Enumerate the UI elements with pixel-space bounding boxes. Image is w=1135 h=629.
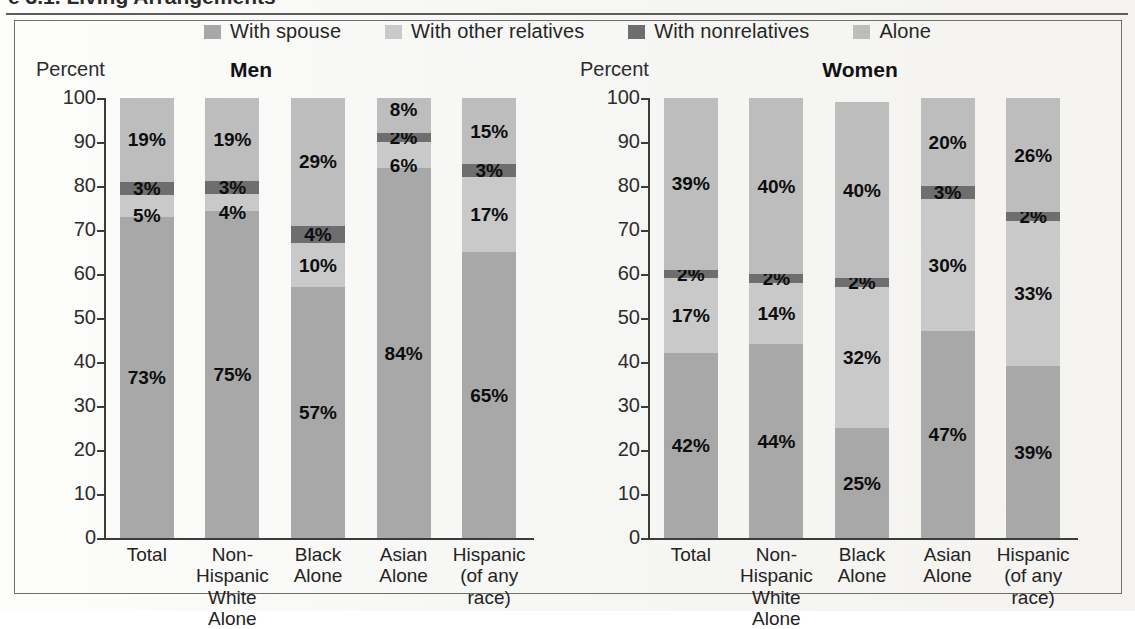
stacked-bar[interactable]: 47%30%3%20% bbox=[921, 98, 975, 538]
y-tick-label-60: 60 bbox=[50, 262, 96, 285]
x-axis-label-line1: Total bbox=[671, 544, 711, 565]
x-axis-women bbox=[648, 538, 1078, 540]
y-tick-label-30: 30 bbox=[594, 394, 640, 417]
bar-segment-nonrelatives[interactable]: 2% bbox=[749, 274, 803, 283]
bar-segment-nonrelatives[interactable]: 3% bbox=[205, 181, 259, 194]
bar-segment-spouse[interactable]: 65% bbox=[462, 252, 516, 538]
stacked-bar[interactable]: 75%4%3%19% bbox=[205, 98, 259, 538]
bar-segment-nonrelatives[interactable]: 3% bbox=[462, 164, 516, 177]
bar-slot: 44%14%2%40% bbox=[734, 98, 820, 538]
x-axis-label: BlackAlone bbox=[819, 544, 905, 604]
bar-segment-nonrelatives[interactable]: 3% bbox=[120, 182, 174, 195]
bar-segment-other_relatives[interactable]: 10% bbox=[291, 243, 345, 287]
bar-segment-label: 33% bbox=[1014, 284, 1052, 303]
bar-slot: 84%6%2%8% bbox=[361, 98, 447, 538]
bar-segment-other_relatives[interactable]: 17% bbox=[462, 177, 516, 252]
bar-segment-nonrelatives[interactable]: 2% bbox=[377, 133, 431, 142]
bar-segment-alone[interactable]: 19% bbox=[205, 98, 259, 181]
bar-segment-label: 73% bbox=[128, 368, 166, 387]
stacked-bar[interactable]: 84%6%2%8% bbox=[377, 98, 431, 538]
bar-segment-alone[interactable]: 40% bbox=[835, 102, 889, 278]
bar-segment-spouse[interactable]: 57% bbox=[291, 287, 345, 538]
y-tick-0 bbox=[641, 538, 650, 540]
y-tick-label-40: 40 bbox=[50, 350, 96, 373]
y-tick-label-20: 20 bbox=[50, 438, 96, 461]
bar-segment-label: 6% bbox=[390, 156, 417, 175]
y-tick-label-80: 80 bbox=[50, 174, 96, 197]
bar-segment-spouse[interactable]: 25% bbox=[835, 428, 889, 538]
bar-segment-other_relatives[interactable]: 33% bbox=[1006, 221, 1060, 366]
panel-title-men: Men bbox=[26, 58, 546, 82]
bar-slot: 39%33%2%26% bbox=[990, 98, 1076, 538]
bar-segment-spouse[interactable]: 47% bbox=[921, 331, 975, 538]
bars-men: 73%5%3%19%75%4%3%19%57%10%4%29%84%6%2%8%… bbox=[104, 98, 532, 538]
bar-segment-other_relatives[interactable]: 14% bbox=[749, 283, 803, 345]
x-axis-label: BlackAlone bbox=[275, 544, 361, 604]
y-tick-label-70: 70 bbox=[50, 218, 96, 241]
stacked-bar[interactable]: 39%33%2%26% bbox=[1006, 98, 1060, 538]
x-axis-label: Hispanic(of any race) bbox=[446, 544, 532, 604]
x-axis-label-line1: Non-Hispanic bbox=[740, 544, 813, 586]
bars-women: 42%17%2%39%44%14%2%40%25%32%2%40%47%30%3… bbox=[648, 98, 1076, 538]
bar-segment-other_relatives[interactable]: 17% bbox=[664, 278, 718, 353]
x-axis-label-line1: Black bbox=[295, 544, 341, 565]
bar-slot: 57%10%4%29% bbox=[275, 98, 361, 538]
panel-men: Percent Men 0102030405060708090100 73%5%… bbox=[26, 58, 546, 578]
x-axis-label: Total bbox=[648, 544, 734, 604]
bar-slot: 25%32%2%40% bbox=[819, 98, 905, 538]
bar-segment-spouse[interactable]: 75% bbox=[205, 211, 259, 538]
bar-segment-other_relatives[interactable]: 30% bbox=[921, 199, 975, 331]
bar-segment-alone[interactable]: 20% bbox=[921, 98, 975, 186]
panel-women: Percent Women 0102030405060708090100 42%… bbox=[570, 58, 1090, 578]
bar-segment-alone[interactable]: 8% bbox=[377, 98, 431, 133]
x-axis-label: Hispanic(of any race) bbox=[990, 544, 1076, 604]
bar-segment-alone[interactable]: 29% bbox=[291, 98, 345, 226]
y-tick-label-80: 80 bbox=[594, 174, 640, 197]
x-axis-label-line2: (of any race) bbox=[446, 565, 532, 608]
bar-segment-label: 10% bbox=[299, 256, 337, 275]
bar-segment-label: 39% bbox=[1014, 443, 1052, 462]
bar-segment-label: 84% bbox=[385, 344, 423, 363]
x-axis-label-line1: Asian bbox=[380, 544, 428, 565]
bar-segment-nonrelatives[interactable]: 2% bbox=[835, 278, 889, 287]
bar-segment-label: 47% bbox=[929, 425, 967, 444]
stacked-bar[interactable]: 25%32%2%40% bbox=[835, 98, 889, 538]
stacked-bar[interactable]: 73%5%3%19% bbox=[120, 98, 174, 538]
bar-segment-label: 44% bbox=[757, 432, 795, 451]
bar-segment-spouse[interactable]: 39% bbox=[1006, 366, 1060, 538]
bar-segment-spouse[interactable]: 42% bbox=[664, 353, 718, 538]
x-axis-label-line1: Black bbox=[839, 544, 885, 565]
plot-area-men: 0102030405060708090100 73%5%3%19%75%4%3%… bbox=[104, 98, 532, 538]
x-axis-label-line2: White Alone bbox=[190, 587, 276, 629]
bar-segment-alone[interactable]: 40% bbox=[749, 98, 803, 274]
stacked-bar[interactable]: 65%17%3%15% bbox=[462, 98, 516, 538]
bar-segment-alone[interactable]: 26% bbox=[1006, 98, 1060, 212]
panel-title-women: Women bbox=[570, 58, 1090, 82]
bar-slot: 75%4%3%19% bbox=[190, 98, 276, 538]
bar-segment-nonrelatives[interactable]: 2% bbox=[664, 270, 718, 279]
x-axis-label-line1: Non-Hispanic bbox=[196, 544, 269, 586]
stacked-bar[interactable]: 44%14%2%40% bbox=[749, 98, 803, 538]
bar-segment-label: 32% bbox=[843, 348, 881, 367]
y-tick-label-90: 90 bbox=[594, 130, 640, 153]
stacked-bar[interactable]: 57%10%4%29% bbox=[291, 98, 345, 538]
bar-segment-alone[interactable]: 15% bbox=[462, 98, 516, 164]
bar-segment-nonrelatives[interactable]: 2% bbox=[1006, 212, 1060, 221]
bar-segment-other_relatives[interactable]: 32% bbox=[835, 287, 889, 428]
x-axis-label: Non-HispanicWhite Alone bbox=[190, 544, 276, 604]
bar-segment-label: 29% bbox=[299, 152, 337, 171]
x-axis-label-line2: Alone bbox=[275, 565, 361, 586]
bar-segment-alone[interactable]: 19% bbox=[120, 98, 174, 182]
bar-segment-label: 17% bbox=[672, 306, 710, 325]
stacked-bar[interactable]: 42%17%2%39% bbox=[664, 98, 718, 538]
bar-segment-alone[interactable]: 39% bbox=[664, 98, 718, 270]
bar-segment-nonrelatives[interactable]: 4% bbox=[291, 226, 345, 244]
bar-segment-spouse[interactable]: 84% bbox=[377, 168, 431, 538]
bar-segment-spouse[interactable]: 73% bbox=[120, 217, 174, 538]
bar-segment-nonrelatives[interactable]: 3% bbox=[921, 186, 975, 199]
bar-segment-spouse[interactable]: 44% bbox=[749, 344, 803, 538]
bar-segment-label: 19% bbox=[213, 130, 251, 149]
bar-segment-label: 65% bbox=[470, 386, 508, 405]
bar-segment-label: 30% bbox=[929, 256, 967, 275]
